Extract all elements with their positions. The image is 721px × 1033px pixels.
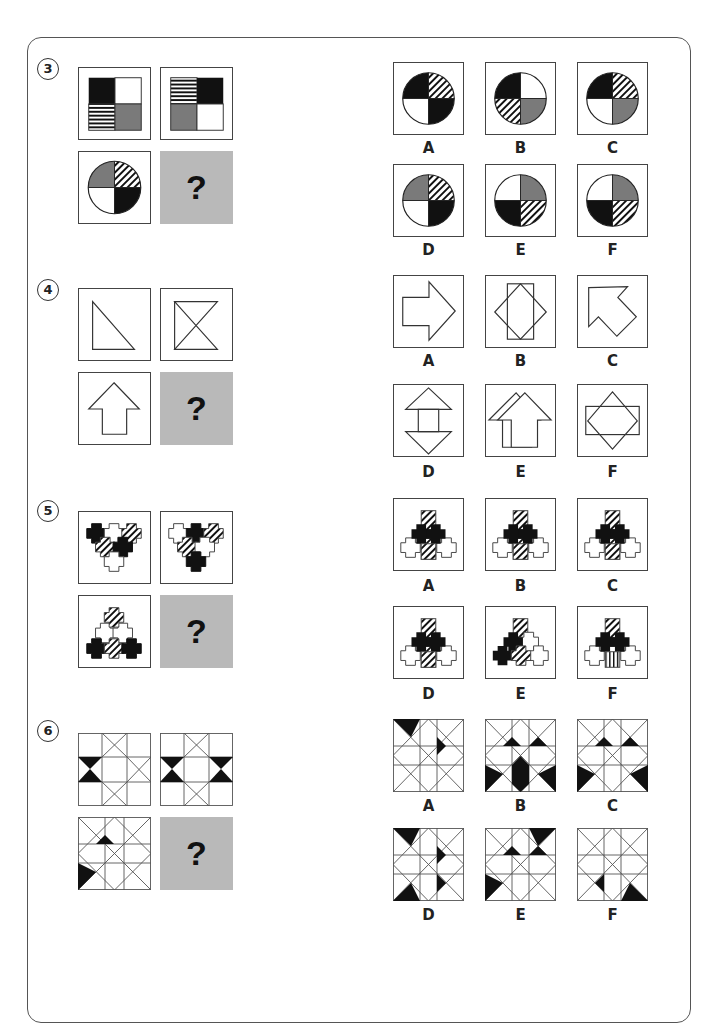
q6-option-e[interactable]: [485, 828, 556, 901]
q5-option-f-label: F: [577, 685, 648, 703]
q6-option-f-label: F: [577, 906, 648, 924]
question-mark-icon: ?: [160, 595, 233, 668]
double-up-arrow-icon: [486, 385, 555, 456]
q6-option-b-label: B: [485, 797, 556, 815]
q3-option-f-label: F: [577, 241, 648, 259]
q4-matrix-cell-2: [160, 288, 233, 361]
q5-matrix-cell-2: [160, 511, 233, 584]
crosses-icon: [161, 512, 232, 583]
right-triangle-icon: [79, 289, 150, 360]
q6-matrix-cell-1: [78, 733, 151, 806]
q3-option-c[interactable]: [577, 62, 648, 135]
q3-option-a[interactable]: [393, 62, 464, 135]
q5-option-d[interactable]: [393, 606, 464, 679]
question-mark-icon: ?: [160, 151, 233, 224]
q3-option-f[interactable]: [577, 164, 648, 237]
double-arrow-icon: [394, 385, 463, 456]
up-arrow-icon: [79, 373, 150, 444]
q5-option-c[interactable]: [577, 498, 648, 571]
q6-option-d-label: D: [393, 906, 464, 924]
grid-pattern-icon: [160, 733, 233, 806]
grid-pattern-icon: [78, 733, 151, 806]
q4-option-a-label: A: [393, 352, 464, 370]
q4-answer-placeholder: ?: [160, 372, 233, 445]
question-number-3: 3: [37, 58, 59, 80]
q5-answer-placeholder: ?: [160, 595, 233, 668]
q5-option-d-label: D: [393, 685, 464, 703]
q5-option-b-label: B: [485, 577, 556, 595]
q5-matrix-cell-1: [78, 511, 151, 584]
q4-option-c[interactable]: [577, 275, 648, 348]
q3-option-e-label: E: [485, 241, 556, 259]
quadrant-square-icon: [161, 68, 232, 139]
q6-option-a-label: A: [393, 797, 464, 815]
q4-option-d-label: D: [393, 463, 464, 481]
q3-option-d-label: D: [393, 241, 464, 259]
q6-matrix-cell-2: [160, 733, 233, 806]
q5-option-e[interactable]: [485, 606, 556, 679]
q4-option-b[interactable]: [485, 275, 556, 348]
q5-option-b[interactable]: [485, 498, 556, 571]
question-number-6: 6: [37, 720, 59, 742]
crosses-icon: [79, 512, 150, 583]
q6-answer-placeholder: ?: [160, 817, 233, 890]
q5-option-c-label: C: [577, 577, 648, 595]
quadrant-circle-icon: [79, 152, 150, 223]
q4-option-b-label: B: [485, 352, 556, 370]
q5-matrix-cell-3: [78, 595, 151, 668]
question-number-4: 4: [37, 279, 59, 301]
rect-diamond-icon: [486, 276, 555, 347]
q4-option-a[interactable]: [393, 275, 464, 348]
grid-pattern-icon: [78, 817, 151, 890]
quadrant-square-icon: [79, 68, 150, 139]
q3-matrix-cell-1: [78, 67, 151, 140]
diagonal-arrow-icon: [578, 276, 647, 347]
q6-option-f[interactable]: [577, 828, 648, 901]
q3-option-d[interactable]: [393, 164, 464, 237]
q4-option-f[interactable]: [577, 384, 648, 457]
q4-option-e[interactable]: [485, 384, 556, 457]
wide-rect-diamond-icon: [578, 385, 647, 456]
q6-option-c[interactable]: [577, 719, 648, 792]
q3-option-b[interactable]: [485, 62, 556, 135]
q4-option-d[interactable]: [393, 384, 464, 457]
question-mark-icon: ?: [160, 817, 233, 890]
q3-option-a-label: A: [393, 139, 464, 157]
q3-option-e[interactable]: [485, 164, 556, 237]
crosses-pyramid-icon: [79, 596, 150, 667]
q4-option-c-label: C: [577, 352, 648, 370]
hourglass-icon: [161, 289, 232, 360]
q6-option-d[interactable]: [393, 828, 464, 901]
q3-option-c-label: C: [577, 139, 648, 157]
q4-option-e-label: E: [485, 463, 556, 481]
q6-option-b[interactable]: [485, 719, 556, 792]
q3-matrix-cell-2: [160, 67, 233, 140]
q5-option-e-label: E: [485, 685, 556, 703]
q6-option-c-label: C: [577, 797, 648, 815]
question-mark-icon: ?: [160, 372, 233, 445]
q3-matrix-cell-3: [78, 151, 151, 224]
right-arrow-icon: [394, 276, 463, 347]
question-number-5: 5: [37, 500, 59, 522]
q4-matrix-cell-3: [78, 372, 151, 445]
q6-option-e-label: E: [485, 906, 556, 924]
q5-option-a[interactable]: [393, 498, 464, 571]
q4-option-f-label: F: [577, 463, 648, 481]
q6-matrix-cell-3: [78, 817, 151, 890]
q4-matrix-cell-1: [78, 288, 151, 361]
q3-answer-placeholder: ?: [160, 151, 233, 224]
q5-option-f[interactable]: [577, 606, 648, 679]
q6-option-a[interactable]: [393, 719, 464, 792]
q3-option-b-label: B: [485, 139, 556, 157]
q5-option-a-label: A: [393, 577, 464, 595]
